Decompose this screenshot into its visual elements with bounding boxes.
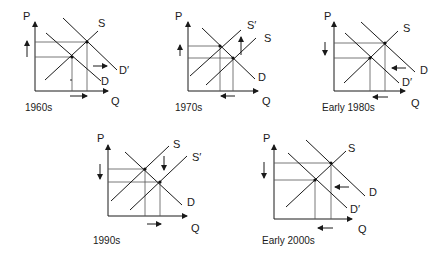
panel-caption: 1990s — [93, 235, 120, 246]
panel-1990s: P Q S S′ D 1990s — [93, 132, 201, 246]
demand-label: D — [369, 186, 377, 198]
equilibrium-old — [383, 41, 386, 44]
demand-curve — [125, 152, 182, 205]
equilibrium-new — [218, 44, 221, 47]
panel-caption: Early 2000s — [262, 235, 315, 246]
equilibrium-old — [143, 167, 146, 170]
price-axis-label: P — [175, 10, 182, 22]
supply-curve — [206, 38, 256, 85]
price-axis-label: P — [97, 132, 104, 144]
demand-label: D — [420, 64, 428, 76]
supply-demand-diagrams: P Q S D′ D 1960s P Q — [0, 0, 448, 258]
price-axis-label: P — [263, 132, 270, 144]
demand-prime-label: D′ — [402, 76, 412, 88]
supply-label: S — [348, 142, 355, 154]
quantity-axis-label: Q — [111, 95, 120, 107]
panel-1960s: P Q S D′ D 1960s — [23, 10, 129, 113]
supply-label: S — [98, 17, 105, 29]
supply-label: S — [264, 32, 271, 44]
demand-prime-label: D′ — [119, 64, 129, 76]
panel-caption: 1970s — [175, 102, 202, 113]
demand-label: D — [101, 75, 109, 87]
price-axis-label: P — [23, 10, 30, 22]
demand-prime-label: D′ — [350, 203, 360, 215]
panel-caption: 1960s — [25, 102, 52, 113]
panel-caption: Early 1980s — [322, 102, 375, 113]
demand-prime-curve — [63, 18, 117, 70]
supply-label: S — [173, 138, 180, 150]
equilibrium-old — [231, 56, 234, 59]
equilibrium-new — [85, 40, 88, 43]
quantity-axis-label: Q — [262, 95, 271, 107]
price-axis-label: P — [324, 10, 331, 22]
demand-curve — [202, 28, 255, 79]
panel-early-2000s: P Q S D D′ Early 2000s — [262, 132, 377, 246]
equilibrium-old — [329, 161, 332, 164]
quantity-axis-label: Q — [358, 223, 367, 235]
equilibrium-new — [368, 56, 371, 59]
equilibrium-old — [70, 55, 73, 58]
supply-label: S — [403, 22, 410, 34]
equilibrium-new — [313, 178, 316, 181]
panel-1970s: P Q S′ S D 1970s — [175, 10, 271, 113]
demand-label: D — [258, 71, 266, 83]
supply-prime-label: S′ — [247, 19, 256, 31]
quantity-axis-label: Q — [411, 97, 420, 109]
demand-prime-curve — [288, 153, 347, 208]
quantity-axis-label: Q — [191, 222, 200, 234]
supply-prime-label: S′ — [192, 151, 201, 163]
stray-dot — [70, 79, 72, 81]
demand-label: D — [187, 196, 195, 208]
panel-early-1980s: P Q S D D′ Early 1980s — [322, 10, 428, 113]
equilibrium-new — [158, 180, 161, 183]
